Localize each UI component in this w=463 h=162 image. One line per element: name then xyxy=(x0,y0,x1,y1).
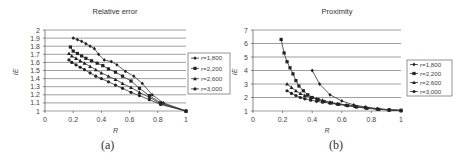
circle-marker-icon xyxy=(129,91,132,94)
triangle-marker-icon xyxy=(88,64,92,68)
circle-marker-icon xyxy=(285,89,288,92)
square-marker-icon xyxy=(412,72,415,75)
x-tick-label: 0.6 xyxy=(125,116,135,123)
relative-error-chart: Relative error11.11.21.31.41.51.61.71.81… xyxy=(12,7,230,134)
circle-marker-icon xyxy=(121,87,124,90)
triangle-marker-icon xyxy=(298,91,302,95)
y-tick-label: 1 xyxy=(36,108,40,115)
y-tick-label: 7 xyxy=(244,27,248,34)
y-tick-label: 1.2 xyxy=(30,91,40,98)
y-tick-label: 1.8 xyxy=(30,43,40,50)
series-1800 xyxy=(72,36,188,113)
circle-marker-icon xyxy=(412,90,415,93)
legend: r=1,800r=2,200r=2,600r=3,000 xyxy=(188,53,230,94)
triangle-marker-icon xyxy=(74,56,78,60)
y-tick-label: 3 xyxy=(244,81,248,88)
triangle-marker-icon xyxy=(78,59,82,63)
circle-marker-icon xyxy=(364,106,367,109)
triangle-marker-icon xyxy=(94,68,98,72)
y-tick-label: 5 xyxy=(244,54,248,61)
x-tick-label: 0.2 xyxy=(278,116,288,123)
circle-marker-icon xyxy=(159,103,162,106)
circle-marker-icon xyxy=(303,97,306,100)
square-marker-icon xyxy=(285,60,288,63)
legend-entry: r=2,200 xyxy=(420,70,442,77)
x-axis-label: R xyxy=(324,127,329,134)
legend: r=1,800r=2,200r=2,600r=3,000 xyxy=(407,60,452,96)
circle-marker-icon xyxy=(309,99,312,102)
circle-marker-icon xyxy=(83,68,86,71)
diamond-marker-icon xyxy=(84,42,87,46)
square-marker-icon xyxy=(302,89,305,92)
legend-entry: r=1,800 xyxy=(420,61,442,68)
circle-marker-icon xyxy=(388,108,391,111)
y-tick-label: 1.4 xyxy=(30,75,40,82)
diamond-marker-icon xyxy=(80,39,83,43)
circle-marker-icon xyxy=(299,96,302,99)
circle-marker-icon xyxy=(315,100,318,103)
x-tick-label: 0.4 xyxy=(307,116,317,123)
circle-marker-icon xyxy=(328,102,331,105)
square-marker-icon xyxy=(114,71,117,74)
diamond-marker-icon xyxy=(72,36,75,40)
chart-title: Proximity xyxy=(322,7,353,16)
y-axis-label: IE xyxy=(231,68,238,75)
x-tick-label: 1 xyxy=(184,116,188,123)
circle-marker-icon xyxy=(321,101,324,104)
x-tick-label: 0.6 xyxy=(337,116,347,123)
triangle-marker-icon xyxy=(83,61,87,65)
circle-marker-icon xyxy=(114,83,117,86)
square-marker-icon xyxy=(121,75,124,78)
circle-marker-icon xyxy=(184,109,187,112)
series-3000 xyxy=(285,89,402,112)
circle-marker-icon xyxy=(138,94,141,97)
circle-marker-icon xyxy=(67,58,70,61)
square-marker-icon xyxy=(282,51,285,54)
y-tick-label: 2 xyxy=(36,27,40,34)
square-marker-icon xyxy=(84,57,87,60)
y-tick-label: 1.9 xyxy=(30,35,40,42)
square-marker-icon xyxy=(280,38,283,41)
square-marker-icon xyxy=(69,45,72,48)
square-marker-icon xyxy=(101,64,104,67)
y-tick-label: 2 xyxy=(244,94,248,101)
x-tick-label: 0.8 xyxy=(153,116,163,123)
square-marker-icon xyxy=(80,54,83,57)
x-tick-label: 0.2 xyxy=(68,116,78,123)
x-tick-label: 1 xyxy=(399,116,403,123)
series-2600 xyxy=(285,82,403,112)
circle-marker-icon xyxy=(290,92,293,95)
circle-marker-icon xyxy=(376,107,379,110)
circle-marker-icon xyxy=(336,103,339,106)
x-tick-label: 0.8 xyxy=(367,116,377,123)
square-marker-icon xyxy=(297,84,300,87)
legend-entry: r=2,200 xyxy=(201,65,223,72)
x-tick-label: 0 xyxy=(251,116,255,123)
circle-marker-icon xyxy=(79,66,82,69)
triangle-marker-icon xyxy=(100,71,104,75)
x-tick-label: 0 xyxy=(43,116,47,123)
diamond-marker-icon xyxy=(340,99,343,103)
triangle-marker-icon xyxy=(121,81,125,85)
diamond-marker-icon xyxy=(89,44,92,48)
square-marker-icon xyxy=(72,49,75,52)
legend-entry: r=3,000 xyxy=(201,85,223,92)
legend-entry: r=3,000 xyxy=(420,88,442,95)
circle-marker-icon xyxy=(74,63,77,66)
y-tick-label: 6 xyxy=(244,40,248,47)
y-tick-label: 1.7 xyxy=(30,51,40,58)
circle-marker-icon xyxy=(294,94,297,97)
circle-marker-icon xyxy=(345,104,348,107)
square-marker-icon xyxy=(129,79,132,82)
square-marker-icon xyxy=(291,72,294,75)
chart-title: Relative error xyxy=(92,7,138,16)
legend-entry: r=2,600 xyxy=(201,75,223,82)
circle-marker-icon xyxy=(399,109,402,112)
square-marker-icon xyxy=(288,66,291,69)
y-axis-label: IE xyxy=(12,68,19,75)
circle-marker-icon xyxy=(148,98,151,101)
y-tick-label: 1.5 xyxy=(30,67,40,74)
circle-marker-icon xyxy=(94,75,97,78)
caption-b: (b) xyxy=(329,138,343,153)
series-2600 xyxy=(67,51,188,112)
